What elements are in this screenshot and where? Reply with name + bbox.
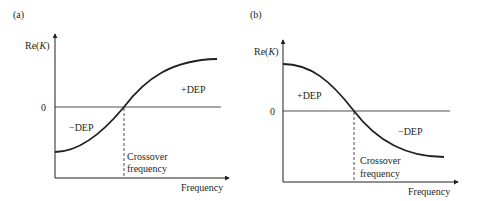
panel-b-crossover-label-line2: frequency	[360, 168, 400, 179]
panel-a: (a) Re(K) 0 +DEP −DEP Crossover frequenc…	[13, 9, 229, 193]
panel-a-x-axis-label: Frequency	[181, 182, 223, 193]
panel-b-x-axis-label: Frequency	[408, 186, 450, 197]
panel-a-positive-dep-label: +DEP	[181, 84, 206, 95]
panel-b-crossover-label-line1: Crossover	[360, 155, 401, 166]
panel-a-crossover-label-line1: Crossover	[127, 151, 168, 162]
panel-b-y-axis-label: Re(K)	[254, 46, 278, 58]
dep-diagram: (a) Re(K) 0 +DEP −DEP Crossover frequenc…	[0, 0, 479, 201]
panel-a-curve	[55, 59, 217, 152]
panel-b-curve	[283, 64, 444, 157]
panel-b: (b) Re(K) 0 +DEP −DEP Crossover frequenc…	[250, 9, 458, 197]
panel-a-zero-label: 0	[41, 102, 46, 113]
panel-b-negative-dep-label: −DEP	[398, 126, 423, 137]
panel-b-zero-label: 0	[270, 106, 275, 117]
panel-b-positive-dep-label: +DEP	[297, 90, 322, 101]
panel-b-label: (b)	[250, 9, 262, 21]
panel-a-label: (a)	[13, 9, 24, 21]
panel-a-negative-dep-label: −DEP	[69, 122, 94, 133]
panel-a-y-axis-label: Re(K)	[25, 40, 49, 52]
panel-a-crossover-label-line2: frequency	[127, 163, 167, 174]
